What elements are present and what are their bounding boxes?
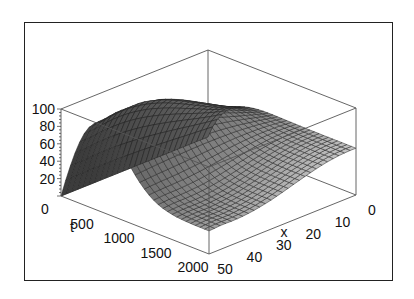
surface-plot: 20406080100050010001500200001020304050tx	[0, 0, 414, 299]
t-tick-label: 2000	[177, 259, 208, 275]
z-axis-ticks	[57, 109, 61, 196]
x-tick-label: 40	[247, 249, 263, 265]
x-tick-label: 20	[305, 226, 321, 242]
z-tick-label: 80	[39, 118, 55, 134]
z-tick-label: 60	[39, 136, 55, 152]
t-axis-label: t	[70, 219, 74, 235]
x-tick-label: 10	[335, 214, 351, 230]
x-axis-label: x	[281, 224, 288, 240]
t-tick-label: 1000	[103, 230, 134, 246]
z-tick-label: 100	[32, 101, 56, 117]
z-tick-label: 40	[39, 153, 55, 169]
t-tick-label: 0	[41, 201, 49, 217]
surface-mesh	[61, 99, 356, 231]
x-tick-label: 0	[368, 202, 376, 218]
x-tick-label: 50	[217, 261, 233, 277]
t-tick-label: 1500	[140, 245, 171, 261]
z-tick-label: 20	[39, 171, 55, 187]
